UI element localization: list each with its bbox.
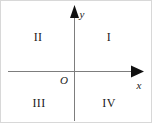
quadrant-label-i: I <box>107 31 111 43</box>
x-axis-arrowhead-icon <box>131 66 144 78</box>
axes-graphic <box>1 1 152 123</box>
quadrant-label-iii: III <box>33 97 46 109</box>
y-axis-label: y <box>80 9 85 20</box>
quadrant-label-ii: II <box>34 31 43 43</box>
y-axis-arrowhead-icon <box>70 5 79 18</box>
quadrant-label-iv: IV <box>102 97 115 109</box>
coordinate-plane-figure: y x O I II III IV <box>0 0 152 123</box>
x-axis-label: x <box>137 80 142 91</box>
origin-label: O <box>60 75 68 86</box>
